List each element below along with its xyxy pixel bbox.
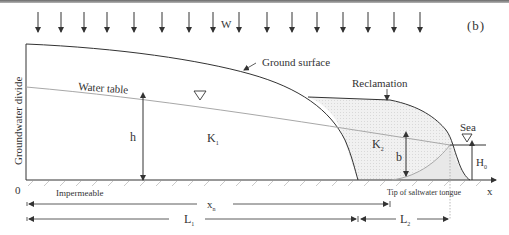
b-label: b [396,150,402,164]
xn-label: xn [207,198,216,212]
l2-label: L2 [400,212,410,227]
l1-label: L1 [184,212,194,227]
ground-surface-label: Ground surface [262,56,330,68]
h-label: h [130,130,136,144]
impermeable-hatch [28,181,481,186]
h0-label: H0 [476,156,487,170]
sea-label: Sea [460,121,476,133]
sea-level-symbol [462,134,472,142]
x-axis-label: x [487,185,493,197]
ground-surface-pointer [244,63,256,70]
reclamation-label: Reclamation [352,77,408,89]
impermeable-label: Impermeable [56,188,103,198]
origin-label: 0 [15,184,21,196]
tip-saltwater-label: Tip of saltwater tongue [387,188,462,197]
aquifer-diagram: W (b) Ground surface Reclamation Water t… [0,0,509,235]
groundwater-divide-label: Groundwater divide [12,77,24,165]
water-table-symbol [194,91,206,100]
panel-label: (b) [467,18,485,33]
k1-label: K1 [207,131,219,146]
recharge-label: W [221,18,232,30]
